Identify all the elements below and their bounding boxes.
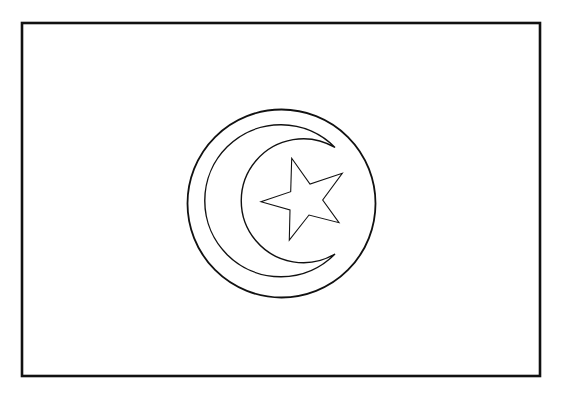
flag-drawing <box>0 0 562 393</box>
background <box>0 0 562 393</box>
